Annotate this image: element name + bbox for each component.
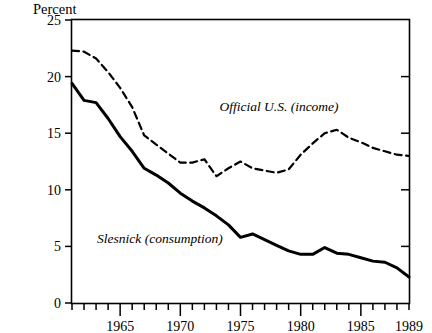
y-tick-label-20: 20 [47, 70, 61, 85]
y-axis-ticks-right [401, 77, 409, 247]
y-axis-tick-labels: 0510152025 [47, 13, 61, 311]
y-tick-label-10: 10 [47, 183, 61, 198]
y-axis-unit-label: Percent [33, 1, 76, 17]
x-tick-label-1970: 1970 [166, 319, 194, 333]
series-label-official-us: Official U.S. (income) [219, 99, 339, 114]
y-tick-label-5: 5 [54, 239, 61, 254]
x-tick-label-1980: 1980 [287, 319, 315, 333]
x-tick-label-1989: 1989 [395, 319, 423, 333]
x-tick-label-1975: 1975 [227, 319, 255, 333]
line-chart: 0510152025 196519701975198019851989 Perc… [0, 0, 432, 333]
y-tick-label-0: 0 [54, 296, 61, 311]
x-tick-label-1985: 1985 [347, 319, 375, 333]
series-annotations-group: Official U.S. (income)Slesnick (consumpt… [97, 99, 339, 246]
series-label-slesnick: Slesnick (consumption) [97, 231, 223, 246]
x-axis-tick-labels: 196519701975198019851989 [106, 319, 423, 333]
x-tick-label-1965: 1965 [106, 319, 134, 333]
chart-container: 0510152025 196519701975198019851989 Perc… [0, 0, 432, 333]
x-axis-ticks [72, 303, 409, 316]
y-tick-label-15: 15 [47, 126, 61, 141]
